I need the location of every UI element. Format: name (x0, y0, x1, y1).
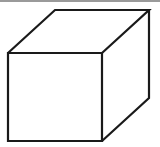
cube-top-face (8, 10, 149, 53)
cube-front-face (8, 53, 102, 141)
cube-right-face (102, 10, 149, 141)
cube-drawing (0, 0, 160, 147)
